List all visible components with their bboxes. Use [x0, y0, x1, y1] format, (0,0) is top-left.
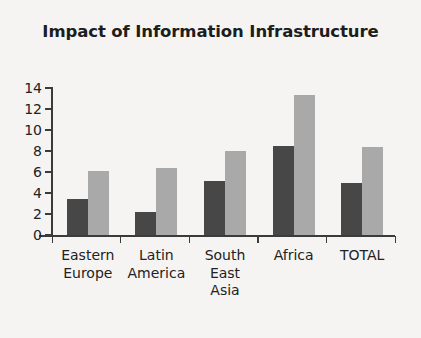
y-axis-tick-label: 10: [8, 123, 42, 137]
x-axis-category-label-line: Latin: [122, 247, 191, 265]
x-axis-category-label-line: TOTAL: [328, 247, 397, 265]
bar-series-2[interactable]: [156, 168, 177, 235]
x-axis-category-label-line: Africa: [259, 247, 328, 265]
x-axis-tick: [257, 236, 258, 243]
x-axis-category-label-line: East: [191, 265, 260, 283]
bar-series-2[interactable]: [294, 95, 315, 235]
page-title: Impact of Information Infrastructure: [0, 22, 421, 41]
x-axis-tick: [52, 236, 53, 243]
y-axis-tick-label: 2: [8, 207, 42, 221]
y-axis-tick-label-text: 12: [14, 102, 42, 116]
x-axis-category-label: LatinAmerica: [122, 247, 191, 282]
y-axis-tick: [45, 171, 52, 172]
y-axis-tick: [45, 213, 52, 214]
bar-series-2[interactable]: [362, 147, 383, 235]
x-axis-category-label-line: Eastern: [54, 247, 123, 265]
y-axis-tick-label-text: 2: [14, 207, 42, 221]
y-axis-tick-label: 8: [8, 144, 42, 158]
bar-series-1[interactable]: [67, 199, 88, 235]
x-axis-tick: [120, 236, 121, 243]
x-axis-category-label-line: Europe: [54, 265, 123, 283]
y-axis-tick-label-text: 8: [14, 144, 42, 158]
x-axis-category-label: SouthEastAsia: [191, 247, 260, 300]
x-axis-category-label: TOTAL: [328, 247, 397, 265]
y-axis-tick: [45, 129, 52, 130]
bar-series-2[interactable]: [225, 151, 246, 235]
y-axis-tick: [45, 108, 52, 109]
x-axis-tick: [326, 236, 327, 243]
x-axis-category-label: Africa: [259, 247, 328, 265]
bar-series-1[interactable]: [204, 181, 225, 235]
bar-series-2[interactable]: [88, 171, 109, 235]
y-axis-tick: [45, 192, 52, 193]
y-axis-tick-label: 4: [8, 186, 42, 200]
y-axis-tick-label-text: 10: [14, 123, 42, 137]
bar-series-1[interactable]: [273, 146, 294, 235]
x-axis-category-label-line: South: [191, 247, 260, 265]
chart-page: Impact of Information Infrastructure 024…: [0, 0, 421, 338]
y-axis-tick-label: 6: [8, 165, 42, 179]
y-axis-tick-label-text: 14: [14, 81, 42, 95]
x-axis-tick: [395, 236, 396, 243]
y-axis-tick: [45, 87, 52, 88]
x-axis-category-label-line: America: [122, 265, 191, 283]
x-axis-line: [39, 235, 395, 237]
y-axis-tick-label: 14: [8, 81, 42, 95]
y-axis-tick-label-text: 6: [14, 165, 42, 179]
x-axis-category-label: EasternEurope: [54, 247, 123, 282]
y-axis-tick-label-text: 4: [14, 186, 42, 200]
bar-series-1[interactable]: [341, 183, 362, 236]
x-axis-tick: [189, 236, 190, 243]
y-axis-tick-label-text: 0: [14, 228, 42, 242]
y-axis-tick-label: 0: [8, 228, 42, 242]
bar-series-1[interactable]: [135, 212, 156, 235]
x-axis-category-label-line: Asia: [191, 282, 260, 300]
y-axis-tick-label: 12: [8, 102, 42, 116]
y-axis-tick: [45, 150, 52, 151]
